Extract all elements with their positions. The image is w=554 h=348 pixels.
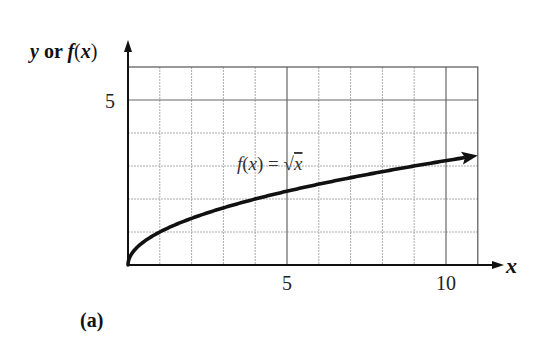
- y-tick-5: 5: [105, 90, 115, 112]
- y-axis-label: y or f(x): [28, 40, 97, 63]
- y-axis-label-y: y: [28, 40, 39, 63]
- x-tick-10: 10: [436, 272, 456, 294]
- grid-minor-lines: [128, 67, 478, 265]
- sqrt-function-chart: y or f(x) 5 5 10 x f(x) = √x (a): [0, 0, 554, 348]
- y-axis-arrow-icon: [124, 40, 132, 52]
- panel-label: (a): [80, 309, 103, 332]
- x-axis-label: x: [505, 253, 517, 278]
- y-axis-label-x: x: [80, 40, 91, 62]
- curve-annotation: f(x) = √x: [237, 153, 303, 175]
- annotation-sqrt-arg: x: [293, 153, 303, 174]
- y-axis-label-or: or: [39, 40, 68, 62]
- y-axis-label-paren-close: ): [91, 40, 98, 63]
- annotation-sqrt-symbol: √: [284, 153, 295, 174]
- x-axis-arrow-icon: [492, 261, 504, 269]
- x-tick-5: 5: [282, 272, 292, 294]
- annotation-equals: ) =: [257, 153, 284, 175]
